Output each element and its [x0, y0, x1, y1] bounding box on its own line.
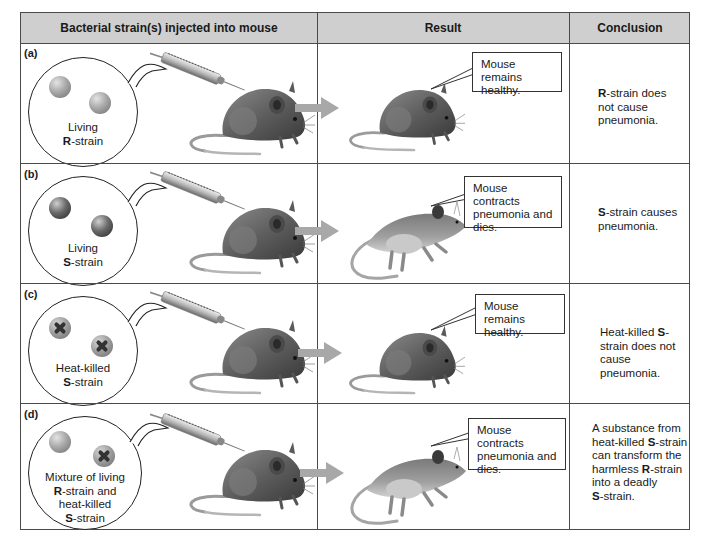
injected-strain-label: Mixture of living R-strain and heat-kill…	[29, 471, 141, 525]
arrow-right-icon	[300, 462, 344, 484]
injection-bubble: Living S-strain	[28, 176, 138, 286]
row-label: (b)	[24, 168, 38, 180]
living-s-bacterium-icon	[49, 197, 71, 219]
living-r-bacterium-icon	[49, 76, 71, 98]
injected-strain-label: Living R-strain	[29, 120, 137, 148]
result-callout: Mouse remains healthy.	[472, 52, 562, 92]
injection-bubble: Mixture of living R-strain and heat-kill…	[28, 416, 142, 530]
injection-bubble: Living R-strain	[28, 57, 138, 167]
table-row-c: (c) Heat-killed S-strain Mouse remains h…	[20, 283, 690, 404]
heat-killed-s-bacterium-icon	[93, 445, 115, 467]
arrow-right-icon	[295, 97, 339, 119]
header-conclusion: Conclusion	[569, 13, 691, 43]
table-row-d: (d) Mixture of living R-strain and heat-…	[20, 403, 690, 531]
row-label: (d)	[24, 408, 38, 420]
conclusion-text: Heat-killed S- strain does not cause pne…	[600, 326, 690, 380]
table-header: Bacterial strain(s) injected into mouse …	[21, 13, 689, 44]
result-callout: Mouse remains healthy.	[475, 294, 565, 334]
injected-mouse-icon	[185, 432, 315, 522]
arrow-right-icon	[298, 342, 342, 364]
living-s-bacterium-icon	[91, 215, 113, 237]
header-bacterial-strains: Bacterial strain(s) injected into mouse	[21, 13, 317, 43]
header-result: Result	[317, 13, 569, 43]
heat-killed-s-bacterium-icon	[91, 335, 113, 357]
table-row-b: (b) Living S-strain Mouse contracts pneu…	[20, 163, 690, 284]
table-row-a: (a) Living R-strain Mouse remains health…	[20, 43, 690, 163]
injected-strain-label: Heat-killed S-strain	[29, 361, 137, 389]
row-label: (a)	[24, 47, 37, 59]
injection-bubble: Heat-killed S-strain	[28, 296, 138, 406]
conclusion-text: A substance from heat-killed S-strain ca…	[592, 422, 687, 503]
result-callout: Mouse contracts pneumonia and dies.	[468, 418, 566, 470]
living-r-bacterium-icon	[49, 431, 71, 453]
heat-killed-s-bacterium-icon	[49, 317, 71, 339]
result-callout: Mouse contracts pneumonia and dies.	[464, 176, 562, 228]
arrow-right-icon	[295, 220, 339, 242]
living-r-bacterium-icon	[89, 92, 111, 114]
conclusion-text: S-strain causes pneumonia.	[598, 206, 677, 233]
injected-strain-label: Living S-strain	[29, 241, 137, 269]
injected-mouse-icon	[185, 310, 315, 400]
row-label: (c)	[24, 288, 37, 300]
conclusion-text: R-strain does not cause pneumonia.	[598, 87, 666, 128]
